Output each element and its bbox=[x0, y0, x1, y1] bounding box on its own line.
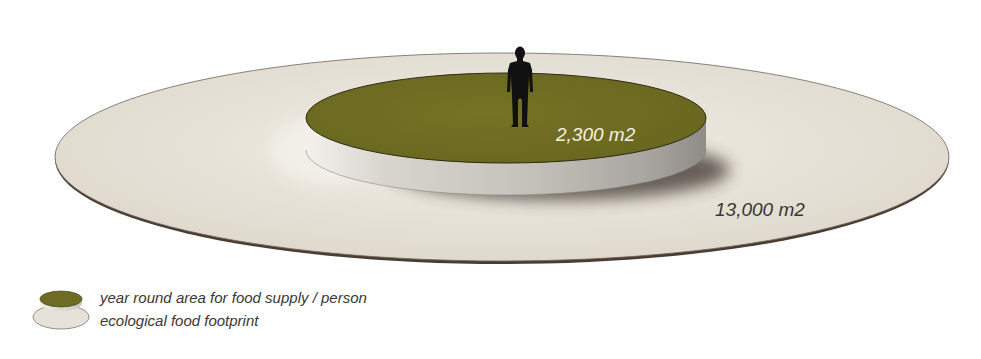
footprint-diagram: 2,300 m2 13,000 m2 year round area for f… bbox=[0, 0, 981, 359]
inner-area-label: 2,300 m2 bbox=[556, 124, 635, 146]
outer-area-label: 13,000 m2 bbox=[715, 199, 805, 221]
inner-food-area-cylinder bbox=[306, 73, 706, 195]
legend-item-food-supply-area: year round area for food supply / person bbox=[100, 289, 367, 306]
legend-swatches bbox=[30, 286, 94, 334]
legend: year round area for food supply / person… bbox=[30, 286, 450, 336]
green-disc-icon bbox=[40, 291, 82, 311]
legend-item-ecological-footprint: ecological food footprint bbox=[100, 312, 258, 329]
